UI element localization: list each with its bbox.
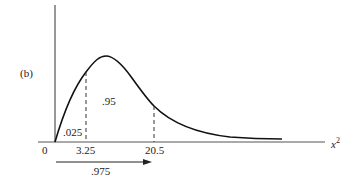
panel-label: (b) [20, 68, 33, 79]
chi-square-plot [0, 0, 356, 183]
left-tail-area-label: .025 [63, 127, 82, 138]
tick-high-label: 20.5 [145, 145, 164, 156]
tick-low-label: 3.25 [76, 145, 95, 156]
arrow-head-icon [143, 159, 152, 165]
central-area-label: .95 [102, 96, 116, 107]
density-curve [55, 56, 282, 142]
x-axis-label: x2 [331, 137, 340, 150]
cumulative-area-label: .975 [91, 166, 110, 177]
origin-label: 0 [42, 145, 48, 156]
x-axis-label-sup: 2 [336, 136, 340, 145]
